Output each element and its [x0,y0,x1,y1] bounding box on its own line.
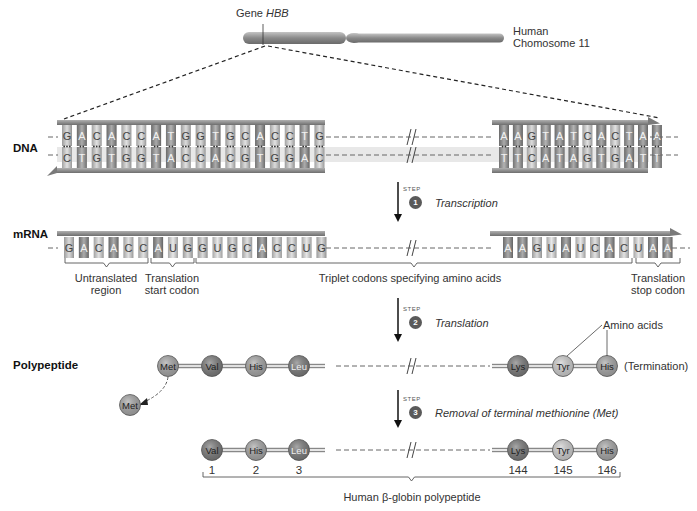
amino-acid-label: Met [160,361,176,372]
position-2: 2 [253,464,259,476]
termination-label: (Termination) [624,360,688,372]
hydrogen-bond [655,146,657,148]
dna-base-bottom: T [652,147,662,168]
mrna-base: A [663,237,673,258]
amino-acid-label: Val [205,445,218,456]
mrna-base: A [561,237,571,258]
amino-acid-label: Met [122,400,138,411]
hydrogen-bond [612,146,614,148]
dna-base-bottom: C [181,147,191,168]
hydrogen-bond [203,146,205,148]
hydrogen-bond [213,146,215,148]
base-letter: C [243,242,251,254]
hydrogen-bond [126,146,128,148]
hydrogen-bond [232,146,234,148]
hydrogen-bond [617,146,619,148]
mrna-base: U [302,237,312,258]
mrna-base: A [257,237,267,258]
mrna-base: C [123,237,133,258]
hydrogen-bond [589,146,591,148]
hydrogen-bond [271,146,273,148]
hydrogen-bond [641,146,643,148]
dna-base-top: C [136,125,146,146]
base-letter: C [241,130,249,142]
mrna-base: C [94,237,104,258]
base-letter: C [137,130,145,142]
dna-base-top: C [270,125,280,146]
amino-acid-met: Met [158,356,179,377]
amino-acid-label: Tyr [556,445,569,456]
base-letter: U [577,242,585,254]
bracket-start-codon [151,258,194,267]
dna-base-top: T [569,125,579,146]
hydrogen-bond [109,146,111,148]
hydrogen-bond [242,146,244,148]
hydrogen-bond [112,146,114,148]
base-letter: A [639,130,647,142]
hydrogen-bond [319,146,321,148]
hydrogen-bond [197,146,199,148]
step-2-word: STEP [403,306,421,312]
base-letter: G [137,152,146,164]
mrna-base: A [79,237,89,258]
base-letter: C [611,130,619,142]
hydrogen-bond [154,146,156,148]
gene-label: Gene HBB [236,7,289,19]
amino-acid-label: His [600,445,614,456]
base-letter: G [271,152,280,164]
mrna-base: A [518,237,528,258]
base-letter: C [315,152,323,164]
step-3-badge: 3 [409,406,422,419]
hydrogen-bond [93,146,95,148]
dna-bottom-backbone-left [57,168,325,173]
base-letter: A [649,242,657,254]
base-letter: A [519,242,527,254]
amino-acid-his: His [597,356,618,377]
amino-acid-label: Tyr [556,361,569,372]
amino-acids-callout: Amino acids [603,319,663,331]
dna-base-top: G [196,125,206,146]
amino-acid-label: His [249,445,263,456]
hydrogen-bond [169,146,171,148]
dna-base-bottom: G [270,147,280,168]
dna-base-top: G [527,125,537,146]
bracket-triplet-codons [196,258,632,267]
dna-base-bottom: T [596,147,606,168]
mrna-base: A [503,237,513,258]
dna-base-bottom: C [62,147,72,168]
step-1-badge: 1 [409,196,422,209]
chromosome-name-line1: Human [513,25,548,37]
dna-base-top: C [610,125,620,146]
base-letter: A [152,130,160,142]
dna-base-top: T [166,125,176,146]
hydrogen-bond [138,146,140,148]
chromosome [243,24,504,45]
mrna-base: A [109,237,119,258]
dna-base-bottom: C [527,147,537,168]
amino-acid-val: Val [202,356,223,377]
base-letter: U [548,242,556,254]
dna-base-bottom: T [77,147,87,168]
hydrogen-bond [316,146,318,148]
mrna-base: C [590,237,600,258]
base-letter: C [591,242,599,254]
hydrogen-bond [258,146,260,148]
dna-base-top: C [240,125,250,146]
base-letter: C [124,242,132,254]
amino-acid-label: Lys [511,445,526,456]
hydrogen-bond [80,146,82,148]
dna-base-top: C [92,125,102,146]
base-letter: G [65,242,74,254]
base-letter: A [653,130,661,142]
hydrogen-bond [321,146,323,148]
hydrogen-bond [123,146,125,148]
dna-base-top: A [499,125,509,146]
base-letter: T [257,152,264,164]
dna-bottom-backbone-right [492,168,648,173]
dna-base-top: A [151,125,161,146]
row-label-dna: DNA [13,142,38,154]
met-release-path [144,377,168,402]
dna-base-bottom: G [121,147,131,168]
hydrogen-bond [505,146,507,148]
base-letter: A [78,130,86,142]
